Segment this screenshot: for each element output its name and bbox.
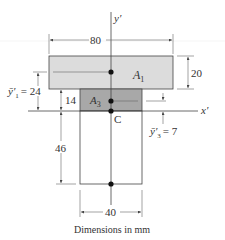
y-axis-label: y′ <box>113 12 122 24</box>
a3-centroid-point <box>108 98 113 103</box>
section-centroid-point <box>108 108 113 113</box>
dim-14-label: 14 <box>65 94 77 106</box>
a1-centroid-point <box>108 69 113 74</box>
dim-y3-label: ȳ′3= 7 <box>149 125 178 140</box>
figure-caption: Dimensions in mm <box>74 224 150 235</box>
dim-40-label: 40 <box>105 206 117 218</box>
dim-20-label: 20 <box>191 67 203 79</box>
t-section-centroid-diagram: y′ x′ C A1 A3 80 20 ȳ′1= 24 14 46 <box>0 0 225 240</box>
web-bottom-point <box>108 181 113 186</box>
dim-y1-label: ȳ′1= 24 <box>7 85 41 100</box>
centroid-label: C <box>114 113 121 125</box>
dim-80-label: 80 <box>90 34 102 46</box>
x-axis-label: x′ <box>200 104 209 116</box>
dim-46-label: 46 <box>55 142 67 154</box>
